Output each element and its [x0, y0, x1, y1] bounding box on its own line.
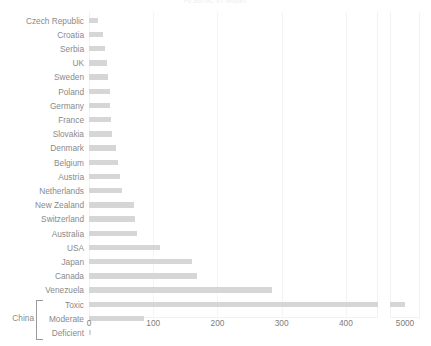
bar-row-break — [390, 298, 420, 312]
bar — [89, 302, 378, 308]
bar-row — [89, 227, 378, 241]
bar — [89, 60, 107, 66]
bar-chart: Arsenic in water Czech RepublicCroatiaSe… — [0, 0, 431, 346]
bar — [89, 89, 110, 95]
bar-row — [89, 184, 378, 198]
bar-row — [89, 85, 378, 99]
bar-row — [89, 298, 378, 312]
plot-panel-break — [390, 12, 420, 318]
bar-row — [89, 141, 378, 155]
bar-row — [89, 127, 378, 141]
bar-row — [89, 70, 378, 84]
bar-row — [89, 99, 378, 113]
bar — [89, 287, 272, 293]
bar-row — [89, 198, 378, 212]
bar-row — [89, 269, 378, 283]
category-label-canada: Canada — [55, 269, 84, 283]
bar — [89, 103, 110, 109]
bar — [89, 18, 98, 24]
category-label-toxic: Toxic — [65, 298, 84, 312]
bar-break-segment — [390, 302, 405, 308]
chart-title-clipped: Arsenic in water — [0, 0, 431, 6]
category-label-croatia: Croatia — [57, 28, 84, 42]
category-label-japan: Japan — [61, 255, 84, 269]
category-label-switzerland: Switzerland — [41, 212, 84, 226]
x-tick-5000: 5000 — [396, 318, 414, 328]
bar-row — [89, 212, 378, 226]
bar-rows-break — [390, 12, 420, 318]
x-tick-100: 100 — [146, 318, 160, 328]
group-bracket-china — [36, 300, 43, 341]
x-tick-0: 0 — [87, 318, 92, 328]
bar — [89, 145, 116, 151]
group-label-china: China — [0, 313, 34, 323]
bar — [89, 117, 111, 123]
category-label-sweden: Sweden — [54, 70, 84, 84]
bar-row — [89, 255, 378, 269]
bar-row — [89, 28, 378, 42]
x-tick-200: 200 — [211, 318, 225, 328]
category-label-slovakia: Slovakia — [53, 127, 84, 141]
category-label-usa: USA — [67, 241, 84, 255]
category-label-czech-republic: Czech Republic — [26, 14, 84, 28]
category-label-deficient: Deficient — [52, 326, 84, 340]
category-label-austria: Austria — [58, 170, 84, 184]
category-label-uk: UK — [72, 56, 84, 70]
bar-row — [89, 170, 378, 184]
category-label-netherlands: Netherlands — [39, 184, 84, 198]
chart-title-text: Arsenic in water — [0, 0, 431, 5]
bar-row — [89, 56, 378, 70]
bar — [89, 259, 192, 265]
category-label-poland: Poland — [58, 85, 84, 99]
bar-row — [89, 283, 378, 297]
bar — [89, 46, 105, 52]
x-tick-400: 400 — [339, 318, 353, 328]
x-axis-break: 5000 — [390, 318, 420, 332]
category-label-australia: Australia — [52, 227, 84, 241]
bar — [89, 202, 134, 208]
bar-rows-main — [89, 12, 378, 318]
category-label-france: France — [58, 113, 84, 127]
bar-row — [89, 14, 378, 28]
category-label-germany: Germany — [50, 99, 84, 113]
bar — [89, 74, 108, 80]
bar — [89, 216, 135, 222]
x-axis-main: 0100200300400 — [89, 318, 378, 332]
bar — [89, 273, 197, 279]
bar-row — [89, 241, 378, 255]
x-tick-300: 300 — [275, 318, 289, 328]
category-label-serbia: Serbia — [60, 42, 84, 56]
category-axis-labels: Czech RepublicCroatiaSerbiaUKSwedenPolan… — [0, 12, 86, 318]
bar — [89, 188, 122, 194]
bar — [89, 131, 112, 137]
category-label-belgium: Belgium — [54, 156, 84, 170]
bar-row — [89, 42, 378, 56]
bar — [89, 231, 137, 237]
bar — [89, 245, 160, 251]
category-label-moderate: Moderate — [49, 312, 84, 326]
plot-panel-main — [89, 12, 378, 318]
category-label-new-zealand: New Zealand — [35, 198, 84, 212]
category-label-venezuela: Venezuela — [45, 283, 84, 297]
bar — [89, 174, 120, 180]
bar — [89, 32, 103, 38]
bar-row — [89, 113, 378, 127]
bar-row — [89, 156, 378, 170]
bar — [89, 160, 118, 166]
category-label-denmark: Denmark — [50, 141, 84, 155]
